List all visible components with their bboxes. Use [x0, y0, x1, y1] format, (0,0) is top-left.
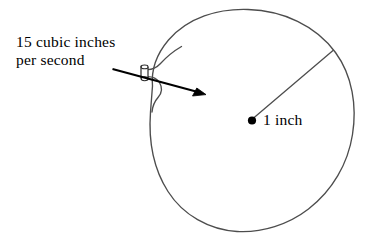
balloon-diagram: 15 cubic inches per second 1 inch [0, 0, 379, 245]
flow-rate-line-1: 15 cubic inches [16, 33, 115, 51]
radius-label: 1 inch [263, 111, 303, 129]
flow-rate-label: 15 cubic inches per second [16, 33, 115, 70]
center-point [248, 116, 256, 124]
flow-rate-line-2: per second [16, 51, 115, 69]
